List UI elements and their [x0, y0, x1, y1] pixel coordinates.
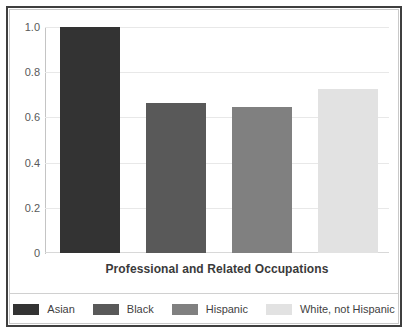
y-tick-label: 0.2: [6, 202, 40, 213]
bar-white-not-hispanic: [318, 89, 378, 253]
legend-item: Hispanic: [172, 303, 248, 315]
x-axis-title: Professional and Related Occupations: [45, 262, 389, 276]
legend-divider: [10, 293, 398, 294]
plot-area: [45, 27, 389, 253]
legend-swatch: [93, 304, 119, 315]
y-tick-label: 0.4: [6, 157, 40, 168]
bar-asian: [60, 27, 120, 253]
bar-hispanic: [232, 107, 292, 253]
y-tick-label: 0: [6, 248, 40, 259]
y-axis-tick-labels: 1.00.80.60.40.20: [0, 27, 40, 253]
legend-item: Asian: [13, 303, 75, 315]
legend-swatch: [266, 304, 292, 315]
legend-label: Black: [127, 303, 154, 315]
legend-label: Asian: [47, 303, 75, 315]
bar-black: [146, 103, 206, 253]
legend-item: Black: [93, 303, 154, 315]
legend-item: White, not Hispanic: [266, 303, 395, 315]
y-tick-label: 0.6: [6, 112, 40, 123]
legend-swatch: [172, 304, 198, 315]
legend-label: White, not Hispanic: [300, 303, 395, 315]
y-tick-label: 0.8: [6, 67, 40, 78]
y-tick-label: 1.0: [6, 22, 40, 33]
chart-legend: AsianBlackHispanicWhite, not Hispanic: [10, 298, 398, 320]
legend-swatch: [13, 304, 39, 315]
bar-chart-figure: 1.00.80.60.40.20 Professional and Relate…: [0, 0, 408, 333]
legend-label: Hispanic: [206, 303, 248, 315]
